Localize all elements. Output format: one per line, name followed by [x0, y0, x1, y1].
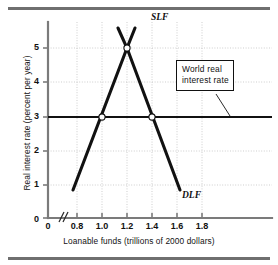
- marker-right-intersection: [149, 114, 155, 120]
- callout-line-2: interest rate: [182, 75, 229, 86]
- marker-peak-intersection: [124, 45, 130, 51]
- callout-line-1: World real: [182, 64, 229, 75]
- callout-leader-line: [216, 94, 230, 116]
- x-axis-title: Loanable funds (trillions of 2000 dollar…: [0, 236, 278, 246]
- marker-left-intersection: [99, 114, 105, 120]
- slf-curve: [73, 28, 135, 190]
- axis-lines: [48, 22, 272, 218]
- slf-series-label: SLF: [151, 12, 168, 22]
- y-tick-label-2: 2: [19, 145, 39, 155]
- gridlines-vertical: [77, 22, 202, 218]
- y-tick-label-3: 3: [19, 111, 39, 121]
- y-tick-label-4: 4: [19, 76, 39, 86]
- y-tick-label-1: 1: [19, 179, 39, 189]
- x-tick-label-0: 0: [33, 221, 63, 231]
- y-tick-label-5: 5: [19, 42, 39, 52]
- x-tick-label-1-8: 1.8: [187, 221, 217, 231]
- dlf-series-label: DLF: [182, 190, 201, 200]
- figure-container: Real interest rate (percent per year) 5 …: [0, 0, 278, 265]
- world-interest-rate-callout: World real interest rate: [176, 60, 234, 91]
